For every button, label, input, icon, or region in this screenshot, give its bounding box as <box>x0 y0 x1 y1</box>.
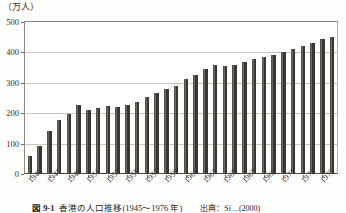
caption-source: 出典：Si ...(2000) <box>200 204 260 213</box>
bar <box>76 105 81 174</box>
bar <box>320 39 325 174</box>
bar <box>96 108 101 174</box>
bar <box>184 79 189 174</box>
bar <box>174 86 179 174</box>
bar <box>154 93 159 174</box>
figure-caption: 図 9-1香港の人口推移(1945～1976 年)出典：Si ...(2000) <box>0 203 346 213</box>
bar <box>135 102 140 174</box>
bar <box>125 105 130 174</box>
y-axis-tick-label: 100 <box>0 140 19 149</box>
y-axis-tick-mark <box>21 174 24 175</box>
y-axis-tick-label: 0 <box>0 170 19 179</box>
y-axis-tick-mark <box>21 144 24 145</box>
bar <box>252 59 257 174</box>
bar <box>301 46 306 174</box>
bar <box>57 120 62 174</box>
y-axis-tick-label: 400 <box>0 48 19 57</box>
bar <box>115 107 120 174</box>
bar <box>193 75 198 174</box>
y-axis-unit-label: （万人） <box>3 2 39 13</box>
y-axis-tick-mark <box>21 83 24 84</box>
bar <box>271 55 276 174</box>
y-axis-tick-mark <box>21 22 24 23</box>
bar <box>242 62 247 174</box>
y-axis-tick-label: 500 <box>0 18 19 27</box>
y-axis-tick-label: 300 <box>0 79 19 88</box>
caption-title: 香港の人口推移(1945～1976 年) <box>59 203 182 213</box>
figure-hong-kong-population: （万人） 0100200300400500 194519471949195119… <box>0 0 346 213</box>
bar <box>232 65 237 174</box>
bar <box>86 110 91 174</box>
bar <box>67 114 72 174</box>
bar <box>223 66 228 174</box>
y-axis-tick-label: 200 <box>0 109 19 118</box>
bar <box>106 106 111 174</box>
bar <box>330 37 335 174</box>
caption-number: 図 9-1 <box>32 203 54 213</box>
bar <box>281 52 286 175</box>
bar <box>145 97 150 174</box>
y-axis-tick-mark <box>21 113 24 114</box>
y-axis-tick-mark <box>21 52 24 53</box>
bar <box>262 57 267 174</box>
bar <box>291 49 296 174</box>
bar <box>47 131 52 174</box>
bar <box>203 69 208 174</box>
bar-series <box>25 22 337 174</box>
bar <box>310 43 315 174</box>
bar <box>164 89 169 174</box>
bar <box>213 65 218 174</box>
